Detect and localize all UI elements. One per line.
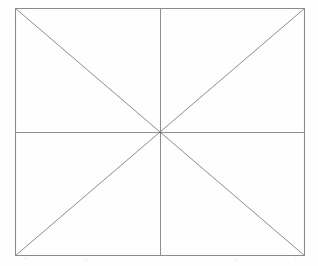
center-intersection-point [159,131,161,133]
geometric-diagram [0,0,318,266]
figure-canvas [0,0,318,266]
